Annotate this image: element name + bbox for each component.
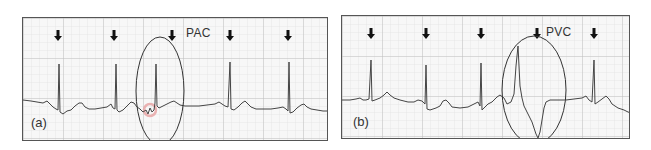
pvc-label: PVC (546, 25, 572, 39)
ecg-panel-a: PAC (a) (22, 17, 328, 141)
panel-label-b: (b) (353, 114, 369, 129)
panel-label-a: (a) (31, 115, 47, 130)
pac-label: PAC (186, 26, 211, 40)
ecg-strip-a (23, 18, 328, 141)
ecg-panel-b: PVC (b) (341, 15, 630, 139)
ecg-strip-b (342, 16, 630, 139)
